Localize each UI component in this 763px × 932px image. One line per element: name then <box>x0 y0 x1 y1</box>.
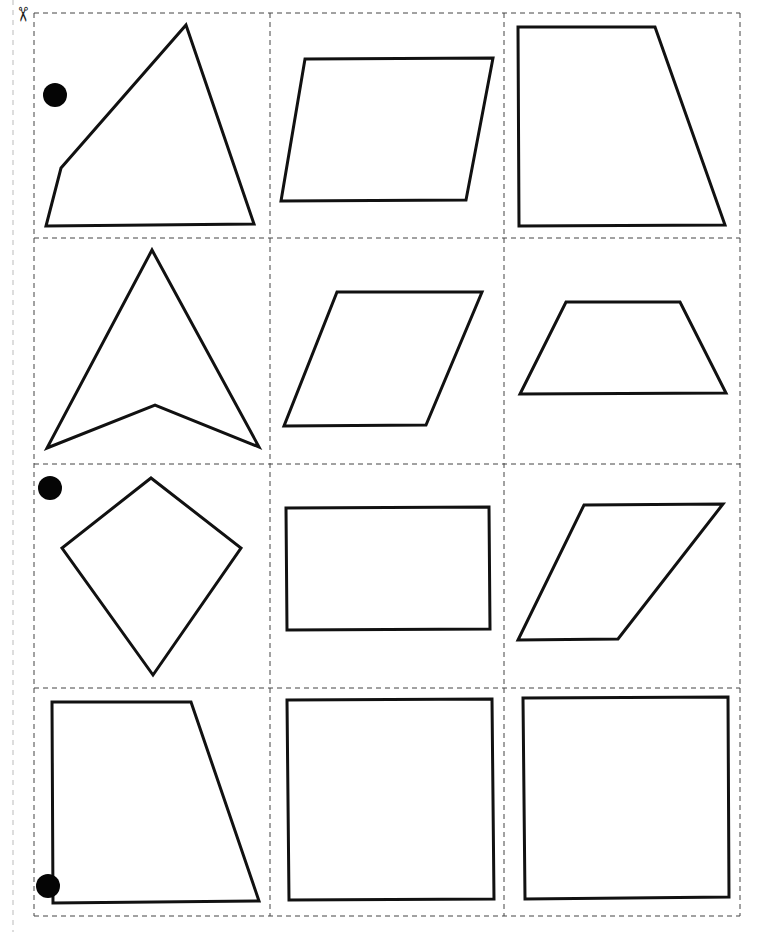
worksheet-sheet: ✂ <box>0 0 763 932</box>
shape-rectangle <box>286 507 490 630</box>
punch-hole <box>36 874 60 898</box>
shape-parallelogram <box>518 504 723 640</box>
shape-square <box>523 697 729 899</box>
shape-parallelogram <box>281 58 493 201</box>
shape-right-trapezoid <box>518 27 725 226</box>
shape-irregular-quadrilateral <box>46 25 254 226</box>
shape-right-trapezoid <box>52 702 259 903</box>
shape-kite <box>62 478 241 675</box>
shape-rectangle <box>287 699 494 900</box>
scissors-icon: ✂ <box>11 6 35 23</box>
shape-rhombus <box>284 292 482 426</box>
punch-hole <box>43 83 67 107</box>
shape-isosceles-trapezoid <box>520 302 726 394</box>
shape-concave-arrowhead <box>47 250 259 448</box>
punch-hole <box>38 476 62 500</box>
